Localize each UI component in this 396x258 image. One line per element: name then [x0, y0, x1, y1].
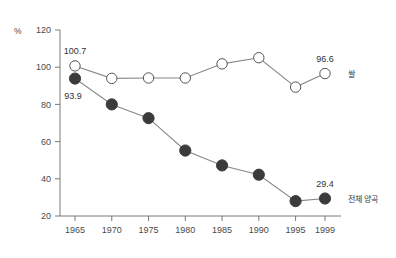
y-tick-label: 20 — [41, 211, 51, 221]
series-2 — [69, 73, 330, 207]
series-line — [75, 79, 325, 202]
data-point-marker — [180, 73, 190, 83]
point-value-label: 100.7 — [64, 46, 87, 56]
data-point-marker — [180, 145, 191, 156]
data-point-marker — [69, 73, 80, 84]
point-value-label: 93.9 — [64, 91, 82, 101]
x-tick-label: 1990 — [249, 225, 269, 235]
y-tick-label: 60 — [41, 137, 51, 147]
x-tick-label: 1980 — [175, 225, 195, 235]
series-name-label: 쌀 — [348, 70, 356, 79]
y-tick-label: 40 — [41, 174, 51, 184]
data-point-marker — [70, 61, 80, 71]
line-chart: 20406080100120 1965197019751980198519901… — [0, 0, 396, 258]
data-point-marker — [290, 82, 300, 92]
chart-annotations: 100.796.693.929.4 — [64, 46, 334, 189]
chart-series-labels: 쌀전체 양곡 — [348, 70, 378, 204]
y-axis-unit-label: % — [14, 26, 22, 36]
data-point-marker — [107, 73, 117, 83]
x-tick-label: 1985 — [212, 225, 232, 235]
series-name-label: 전체 양곡 — [348, 194, 378, 204]
y-axis-ticks: 20406080100120 — [36, 25, 60, 221]
data-point-marker — [290, 196, 301, 207]
data-point-marker — [319, 193, 330, 204]
data-point-marker — [216, 160, 227, 171]
x-tick-label: 1965 — [65, 225, 85, 235]
data-point-marker — [217, 59, 227, 69]
data-point-marker — [106, 99, 117, 110]
point-value-label: 29.4 — [316, 179, 334, 189]
data-point-marker — [143, 113, 154, 124]
x-axis-ticks: 19651970197519801985199019951999 — [65, 216, 335, 235]
data-point-marker — [254, 53, 264, 63]
x-tick-label: 1995 — [286, 225, 306, 235]
y-tick-label: 120 — [36, 25, 51, 35]
chart-axes — [60, 30, 341, 216]
data-point-marker — [143, 73, 153, 83]
y-tick-label: 80 — [41, 100, 51, 110]
series-1 — [70, 53, 330, 93]
x-tick-label: 1999 — [315, 225, 335, 235]
x-tick-label: 1975 — [139, 225, 159, 235]
y-tick-label: 100 — [36, 62, 51, 72]
x-tick-label: 1970 — [102, 225, 122, 235]
chart-container: 20406080100120 1965197019751980198519901… — [0, 0, 396, 258]
data-point-marker — [320, 68, 330, 78]
chart-series-group — [69, 53, 330, 207]
data-point-marker — [253, 169, 264, 180]
point-value-label: 96.6 — [316, 54, 334, 64]
